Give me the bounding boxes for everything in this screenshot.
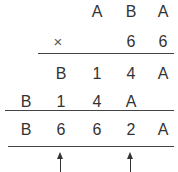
digit: B [16, 121, 36, 139]
digit: 4 [87, 93, 107, 111]
digit: B [121, 3, 141, 21]
digit: 2 [121, 121, 141, 139]
up-arrow-icon [130, 158, 131, 172]
digit: A [87, 3, 107, 21]
digit: A [153, 3, 173, 21]
digit: 6 [51, 121, 71, 139]
digit: 4 [121, 65, 141, 83]
digit: 6 [121, 33, 141, 51]
digit: 6 [87, 121, 107, 139]
digit: A [153, 65, 173, 83]
divider-line [5, 110, 174, 111]
up-arrow-icon [60, 158, 61, 172]
digit: 1 [51, 93, 71, 111]
digit: B [16, 93, 36, 111]
digit: 6 [153, 33, 173, 51]
multiply-sign: × [48, 33, 68, 51]
digit: A [153, 121, 173, 139]
digit: 1 [87, 65, 107, 83]
divider-line [8, 146, 174, 147]
digit: A [121, 93, 141, 111]
digit: B [51, 65, 71, 83]
divider-line [38, 53, 174, 54]
